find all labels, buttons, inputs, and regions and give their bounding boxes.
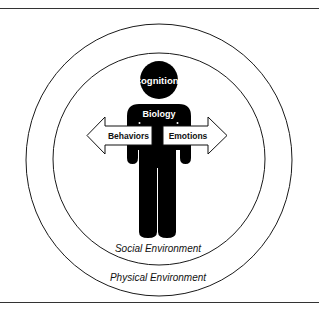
physical-environment-label: Physical Environment <box>110 272 207 283</box>
body-shape <box>127 104 191 238</box>
cognitions-label: Cognitions <box>134 75 184 86</box>
emotions-label: Emotions <box>169 131 208 141</box>
person-figure <box>127 61 191 238</box>
diagram-canvas: Cognitions Biology Behaviors Emotions So… <box>0 0 319 315</box>
biology-label: Biology <box>143 109 176 119</box>
joint-dot-right <box>177 122 179 124</box>
joint-dot-left <box>139 122 141 124</box>
social-environment-label: Social Environment <box>115 243 202 254</box>
behaviors-label: Behaviors <box>108 131 149 141</box>
